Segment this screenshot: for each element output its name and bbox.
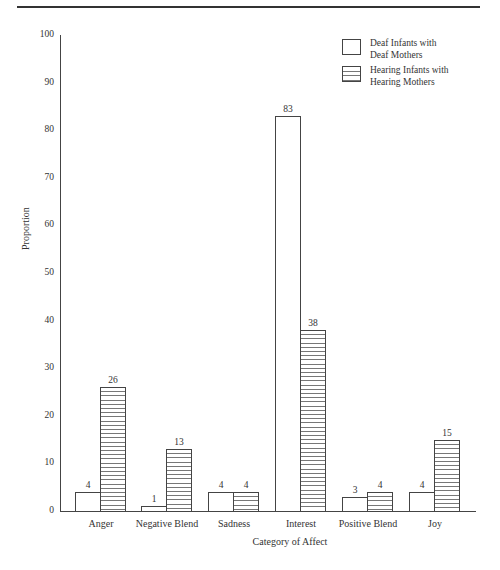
bar-deaf-interest	[275, 116, 301, 512]
bar-value-label: 26	[100, 375, 126, 385]
x-category-label: Joy	[390, 518, 480, 529]
bar-deaf-positive-blend	[342, 497, 368, 512]
y-tick-label: 90	[24, 77, 54, 87]
bar-hearing-negative-blend	[166, 449, 192, 512]
legend-label: Deaf Infants with Deaf Mothers	[370, 37, 490, 61]
bar-value-label: 15	[434, 428, 460, 438]
y-tick-label: 50	[24, 267, 54, 277]
y-tick-label: 40	[24, 315, 54, 325]
bar-hearing-joy	[434, 440, 460, 512]
legend: Deaf Infants with Deaf Mothers Hearing I…	[342, 37, 492, 91]
y-tick-label: 30	[24, 362, 54, 372]
bar-value-label: 4	[409, 480, 435, 490]
bar-hearing-positive-blend	[367, 492, 393, 512]
bar-deaf-sadness	[208, 492, 234, 512]
y-tick-label: 70	[24, 172, 54, 182]
legend-item-deaf: Deaf Infants with Deaf Mothers	[342, 37, 492, 64]
bar-value-label: 38	[300, 318, 326, 328]
legend-item-hearing: Hearing Infants with Hearing Mothers	[342, 64, 492, 91]
bar-deaf-negative-blend	[141, 506, 167, 512]
bar-value-label: 4	[75, 480, 101, 490]
legend-label: Hearing Infants with Hearing Mothers	[370, 64, 490, 88]
y-axis	[60, 35, 61, 512]
bar-value-label: 3	[342, 485, 368, 495]
bar-value-label: 1	[141, 494, 167, 504]
y-tick-label: 100	[24, 29, 54, 39]
bar-value-label: 13	[166, 437, 192, 447]
bar-hearing-sadness	[233, 492, 259, 512]
y-tick-label: 20	[24, 410, 54, 420]
y-tick-label: 60	[24, 219, 54, 229]
bar-value-label: 4	[367, 480, 393, 490]
bar-deaf-anger	[75, 492, 101, 512]
x-axis-title: Category of Affect	[220, 536, 360, 547]
y-tick-label: 80	[24, 124, 54, 134]
bar-value-label: 4	[233, 480, 259, 490]
bar-deaf-joy	[409, 492, 435, 512]
bar-chart: Proportion Category of Affect Deaf Infan…	[0, 0, 500, 570]
legend-swatch-plain-icon	[342, 39, 361, 55]
bar-value-label: 83	[275, 104, 301, 114]
bar-hearing-anger	[100, 387, 126, 512]
y-tick-label: 10	[24, 457, 54, 467]
y-tick-label: 0	[24, 505, 54, 515]
bar-hearing-interest	[300, 330, 326, 512]
bar-value-label: 4	[208, 480, 234, 490]
legend-swatch-hatched-icon	[342, 66, 361, 82]
